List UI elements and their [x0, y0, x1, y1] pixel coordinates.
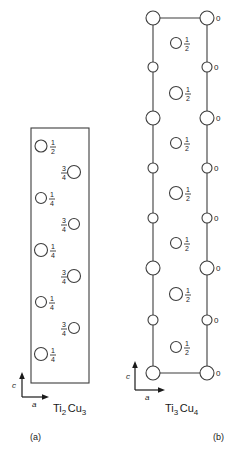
atom-height-zero: 0 [214, 316, 219, 325]
atom-height-numerator: 3 [62, 321, 66, 328]
atom-circle [171, 138, 182, 149]
a-axis-arrowhead [42, 394, 49, 400]
panel-label-a: (a) [30, 432, 41, 442]
atom-height-zero: 0 [214, 214, 219, 223]
atom-height-denominator: 4 [50, 304, 54, 311]
atom-height-denominator: 2 [185, 349, 189, 356]
atom-circle [146, 11, 160, 25]
atom-circle [170, 288, 183, 301]
atom-circle [171, 238, 182, 249]
atom-site: 1 4 [36, 295, 56, 311]
atom-site: 1 2 [170, 287, 192, 303]
atom-height-numerator: 1 [186, 186, 190, 193]
atom-height-denominator: 2 [185, 145, 189, 152]
atom-circle [200, 11, 214, 25]
atom-height-denominator: 4 [62, 226, 66, 233]
formula-subscript-3: 3 [82, 408, 87, 417]
panel-a-group: 1 2 3 4 1 4 3 [12, 128, 89, 442]
atom-site: 0 [202, 315, 219, 325]
atom-site: 1 4 [35, 347, 57, 363]
atom-height-zero: 0 [216, 14, 221, 23]
formula-element-cu: Cu [180, 402, 194, 414]
atom-circle [202, 213, 212, 223]
atom-site: 0 [200, 111, 221, 125]
atom-height-zero: 0 [216, 264, 221, 273]
atom-circle [68, 270, 81, 283]
atom-circle [35, 348, 48, 361]
atom-circle [202, 315, 212, 325]
atom-height-numerator: 1 [51, 139, 55, 146]
atom-height-denominator: 2 [185, 45, 189, 52]
atom-height-numerator: 1 [185, 136, 189, 143]
atom-site: 1 4 [36, 191, 56, 207]
panel-b-group: 0 0 0 0 0 [126, 11, 224, 442]
formula-subscript-3: 3 [174, 408, 179, 417]
atom-site: 0 [200, 366, 221, 380]
atom-site: 1 2 [171, 236, 191, 252]
atom-site: 1 2 [170, 186, 192, 202]
atom-circle [35, 140, 47, 152]
atom-circle [146, 261, 160, 275]
atom-height-numerator: 1 [185, 236, 189, 243]
atom-site: 0 [202, 213, 219, 223]
atom-site: 3 4 [61, 321, 80, 337]
atom-circle [146, 366, 160, 380]
atom-circle [35, 244, 48, 257]
atom-circle [146, 111, 160, 125]
atom-site: 1 2 [35, 139, 56, 155]
c-axis-arrowhead [132, 361, 138, 368]
a-axis-label: a [145, 393, 150, 402]
atom-site: 1 2 [170, 86, 192, 102]
atom-height-numerator: 1 [185, 340, 189, 347]
atom-circle [170, 187, 183, 200]
formula-element-ti: Ti [53, 402, 62, 414]
formula-element-cu: Cu [68, 402, 82, 414]
crystal-structure-figure: 1 2 3 4 1 4 3 [0, 0, 239, 450]
atom-circle [148, 62, 158, 72]
atom-circle [148, 315, 158, 325]
atom-circle [148, 213, 158, 223]
atom-site: 3 4 [61, 165, 81, 181]
atom-height-numerator: 1 [186, 86, 190, 93]
atom-circle [171, 342, 182, 353]
atom-site: 0 [202, 62, 219, 72]
atom-height-numerator: 1 [50, 191, 54, 198]
a-axis-label: a [32, 400, 37, 409]
atom-circle [36, 297, 47, 308]
panel-b-formula: Ti3Cu4 [165, 402, 199, 417]
figure-canvas: 1 2 3 4 1 4 3 [0, 0, 239, 450]
atom-height-denominator: 2 [186, 95, 190, 102]
atom-height-denominator: 4 [62, 278, 66, 285]
c-axis-label: c [126, 372, 130, 381]
panel-a-atoms: 1 2 3 4 1 4 3 [35, 139, 81, 363]
atom-height-numerator: 3 [62, 269, 66, 276]
panel-b-right-column-atoms: 0 0 0 0 0 [200, 11, 221, 380]
panel-a-formula: Ti2Cu3 [53, 402, 87, 417]
atom-height-numerator: 1 [186, 287, 190, 294]
c-axis-arrowhead [19, 372, 25, 379]
atom-circle [200, 111, 214, 125]
atom-height-denominator: 4 [51, 252, 55, 259]
atom-circle [68, 166, 81, 179]
atom-circle [69, 219, 80, 230]
atom-circle [36, 193, 47, 204]
formula-ti2cu3: Ti2Cu3 [53, 402, 87, 417]
atom-height-denominator: 2 [186, 296, 190, 303]
formula-element-ti: Ti [165, 402, 174, 414]
formula-subscript-2: 2 [62, 408, 67, 417]
panel-b-axes: c a [126, 361, 165, 402]
atom-circle [202, 62, 212, 72]
atom-circle [148, 163, 158, 173]
atom-height-numerator: 1 [51, 243, 55, 250]
atom-height-numerator: 3 [62, 217, 66, 224]
atom-height-numerator: 1 [51, 347, 55, 354]
atom-height-zero: 0 [214, 63, 219, 72]
atom-site: 1 2 [171, 36, 191, 52]
atom-height-denominator: 4 [62, 330, 66, 337]
atom-site: 1 2 [171, 340, 191, 356]
panel-label-b: (b) [213, 432, 224, 442]
atom-height-denominator: 4 [50, 200, 54, 207]
formula-subscript-4: 4 [194, 408, 199, 417]
atom-site: 1 2 [171, 136, 191, 152]
atom-height-numerator: 3 [62, 165, 66, 172]
